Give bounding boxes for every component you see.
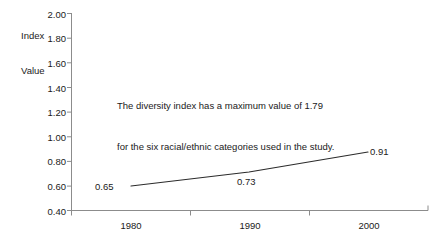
data-label-2000: 0.91 bbox=[370, 146, 389, 157]
y-axis-tick-labels: 2.00 1.80 1.60 1.40 1.20 1.00 0.80 0.60 … bbox=[30, 0, 66, 250]
data-label-1990: 0.73 bbox=[237, 176, 256, 187]
y-tick-label-0-80: 0.80 bbox=[30, 156, 66, 167]
chart-annotation-line-1: The diversity index has a maximum value … bbox=[117, 99, 334, 113]
y-tick-label-0-60: 0.60 bbox=[30, 181, 66, 192]
data-label-1980: 0.65 bbox=[95, 181, 114, 192]
y-tick-label-1-40: 1.40 bbox=[30, 82, 66, 93]
chart-annotation-line-2: for the six racial/ethnic categories use… bbox=[117, 140, 334, 154]
y-tick-label-1-00: 1.00 bbox=[30, 131, 66, 142]
x-tick-label-2000: 2000 bbox=[358, 220, 379, 231]
x-tick-label-1990: 1990 bbox=[239, 220, 260, 231]
y-axis-ticks bbox=[67, 14, 72, 211]
y-tick-label-1-80: 1.80 bbox=[30, 33, 66, 44]
y-tick-label-2-00: 2.00 bbox=[30, 8, 66, 19]
y-tick-label-1-20: 1.20 bbox=[30, 107, 66, 118]
diversity-index-line-chart: Index Value 2.00 1.80 1.60 1.40 1.20 1.0… bbox=[0, 0, 444, 250]
y-tick-label-0-40: 0.40 bbox=[30, 205, 66, 216]
y-tick-label-1-60: 1.60 bbox=[30, 57, 66, 68]
x-tick-label-1980: 1980 bbox=[120, 220, 141, 231]
chart-annotation: The diversity index has a maximum value … bbox=[117, 72, 334, 180]
